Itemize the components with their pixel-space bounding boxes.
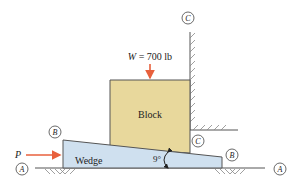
svg-text:C: C [195,137,201,146]
surface-label-B-left: B [49,126,61,138]
push-force-label: P [14,149,21,160]
block-label: Block [138,109,162,120]
weight-label: W = 700 lb [128,51,172,62]
ground-surface [35,168,265,174]
svg-text:A: A [277,165,283,174]
horizontal-ledge [190,125,238,130]
wedge-block-diagram: W = 700 lb Block Wedge 9° P A A B B C C [0,0,300,190]
surface-label-A-left: A [16,163,28,175]
svg-text:A: A [19,165,25,174]
wedge-label: Wedge [75,155,103,166]
surface-label-A-right: A [274,163,286,175]
diagram-svg: W = 700 lb Block Wedge 9° P A A B B C C [0,0,300,190]
surface-label-C-top: C [182,12,194,24]
svg-text:C: C [185,14,191,23]
svg-text:B: B [53,128,58,137]
surface-label-B-right: B [226,149,238,161]
angle-label: 9° [153,154,162,164]
svg-text:B: B [230,151,235,160]
vertical-wall [190,32,195,130]
surface-label-C-bottom: C [192,135,204,147]
